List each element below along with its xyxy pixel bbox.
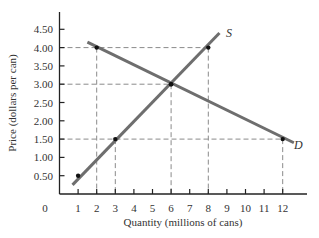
x-tick-label: 9 (224, 202, 230, 214)
curves (73, 33, 294, 185)
supply-demand-chart: 1234567891011120.501.001.502.002.503.003… (0, 0, 319, 238)
origin-label: 0 (42, 202, 48, 214)
x-tick-label: 3 (113, 202, 119, 214)
demand-curve (87, 42, 293, 143)
data-point (169, 82, 173, 86)
data-point (206, 45, 210, 49)
y-tick-label: 2.50 (34, 97, 54, 109)
data-point (281, 137, 285, 141)
data-point (76, 174, 80, 178)
supply-curve-label: S (226, 26, 232, 40)
data-point (95, 45, 99, 49)
x-tick-label: 10 (240, 202, 252, 214)
axes (60, 12, 308, 194)
axis-ticks: 1234567891011120.501.001.502.002.503.003… (34, 23, 288, 214)
y-tick-label: 3.00 (34, 78, 54, 90)
demand-curve-label: D (293, 138, 303, 152)
x-tick-label: 4 (131, 202, 137, 214)
x-tick-label: 7 (187, 202, 193, 214)
x-axis-label: Quantity (millions of cans) (124, 216, 243, 229)
y-tick-label: 2.00 (34, 115, 54, 127)
x-tick-label: 12 (277, 202, 288, 214)
x-tick-label: 6 (168, 202, 174, 214)
x-tick-label: 1 (75, 202, 81, 214)
y-tick-label: 1.50 (34, 133, 54, 145)
y-axis-label: Price (dollars per can) (6, 54, 19, 152)
y-tick-label: 4.50 (34, 23, 54, 35)
data-points (76, 45, 285, 178)
x-tick-label: 5 (150, 202, 156, 214)
y-tick-label: 1.00 (34, 151, 54, 163)
x-tick-label: 2 (94, 202, 100, 214)
data-point (113, 137, 117, 141)
x-tick-label: 11 (259, 202, 270, 214)
supply-curve (73, 33, 220, 185)
y-tick-label: 3.50 (34, 60, 54, 72)
y-tick-label: 4.00 (34, 42, 54, 54)
y-tick-label: 0.50 (34, 170, 54, 182)
x-tick-label: 8 (206, 202, 212, 214)
